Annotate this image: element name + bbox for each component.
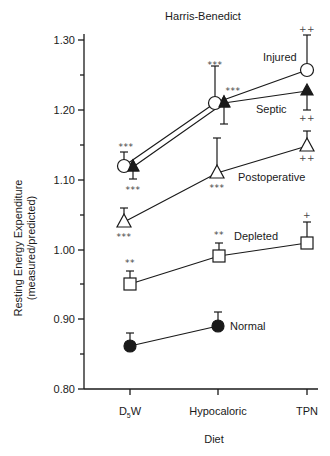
- y-tick-label: 1.00: [54, 244, 75, 256]
- marker-depleted: [213, 250, 225, 262]
- marker-depleted: [301, 237, 313, 249]
- marker-postoperative: [117, 214, 131, 227]
- y-tick-label: 0.80: [54, 383, 75, 395]
- sig-injured-hypo: ***: [208, 60, 223, 70]
- sig-depleted-d5w: **: [125, 258, 135, 268]
- marker-injured: [301, 64, 314, 77]
- label-depleted: Depleted: [234, 230, 278, 242]
- marker-normal: [212, 320, 224, 332]
- y-tick-label: 1.10: [54, 174, 75, 186]
- marker-depleted: [124, 278, 136, 290]
- y-tick-label: 0.90: [54, 313, 75, 325]
- x-tick-label-hypocaloric: Hypocaloric: [189, 405, 247, 417]
- sig-depleted-hypo: **: [214, 230, 224, 240]
- sig-depleted-tpn: +: [303, 210, 311, 220]
- axes: [78, 34, 318, 395]
- label-injured: Injured: [263, 51, 297, 63]
- y-axis-label: Resting Energy Expenditure: [12, 180, 24, 317]
- label-postoperative: Postoperative: [238, 171, 305, 183]
- marker-postoperative: [300, 138, 314, 151]
- line-normal: [130, 326, 218, 346]
- y-tick-labels: 1.30 1.20 1.10 1.00 0.90 0.80: [54, 34, 75, 395]
- y-tick-label: 1.20: [54, 104, 75, 116]
- sig-postop-tpn: ++: [299, 153, 315, 163]
- x-tick-label-d5w: D5W: [119, 405, 142, 419]
- y-tick-label: 1.30: [54, 34, 75, 46]
- sig-postop-d5w: ***: [117, 232, 132, 242]
- chart-title: Harris-Benedict: [165, 10, 241, 22]
- marker-septic: [301, 84, 313, 95]
- chart: Harris-Benedict Resting Energy Expenditu…: [0, 0, 330, 456]
- label-normal: Normal: [230, 320, 265, 332]
- marker-normal: [124, 340, 136, 352]
- sig-septic-d5w: ***: [126, 185, 141, 195]
- label-septic: Septic: [256, 103, 287, 115]
- sig-injured-d5w: ***: [119, 142, 134, 152]
- x-tick-label-tpn: TPN: [296, 405, 318, 417]
- sig-septic-hypo: ***: [226, 86, 241, 96]
- sig-injured-tpn: ++: [299, 24, 315, 34]
- x-axis-label: Diet: [204, 433, 224, 445]
- sig-postop-hypo: ***: [210, 183, 225, 193]
- x-tick-labels: D5W Hypocaloric TPN: [119, 405, 318, 419]
- sig-septic-tpn: ++: [299, 113, 315, 123]
- y-axis-sublabel: (measured/predicted): [25, 196, 37, 301]
